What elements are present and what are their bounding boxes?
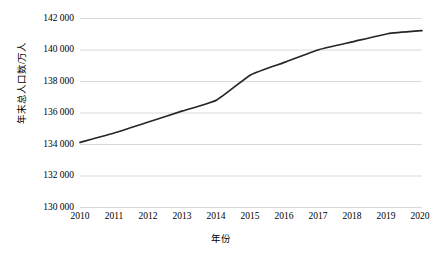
x-axis-title: 年份 bbox=[0, 231, 441, 245]
line-chart: 年末总人口数/万人 142 000 140 000 138 000 136 00… bbox=[0, 0, 441, 257]
gridlines bbox=[80, 19, 422, 208]
plot-area bbox=[0, 0, 441, 257]
data-line-series bbox=[80, 31, 422, 143]
